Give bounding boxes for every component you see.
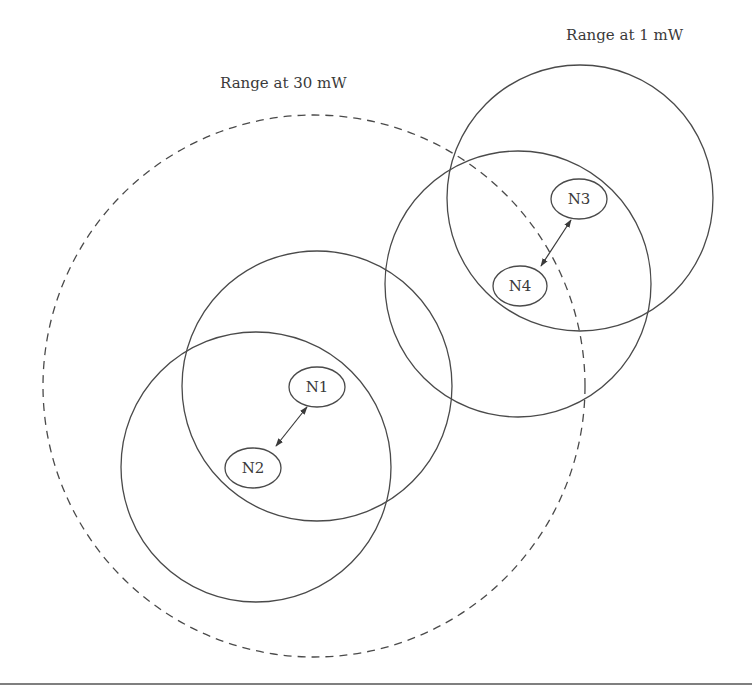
node-n2: N2 [225, 448, 281, 488]
node-n1-label: N1 [306, 378, 329, 396]
node-n4: N4 [493, 266, 547, 306]
diagram-canvas: N1 N2 N3 N4 Range at 30 mW Range at 1 mW [0, 0, 752, 693]
node-n3: N3 [551, 179, 607, 219]
link-n1-n2 [276, 407, 307, 446]
node-n3-label: N3 [568, 190, 591, 208]
label-range-1mw: Range at 1 mW [566, 26, 684, 44]
range-diagram: N1 N2 N3 N4 Range at 30 mW Range at 1 mW [0, 0, 752, 693]
label-range-30mw: Range at 30 mW [220, 74, 347, 92]
node-n4-label: N4 [509, 277, 532, 295]
node-n1: N1 [289, 367, 345, 407]
node-n2-label: N2 [242, 459, 265, 477]
link-n3-n4 [541, 220, 571, 266]
